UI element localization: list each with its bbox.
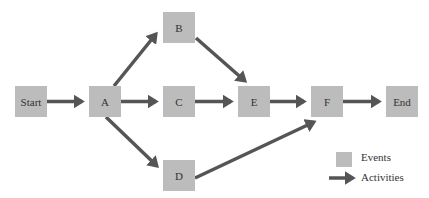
- event-node-d: D: [163, 160, 195, 191]
- node-label: E: [251, 96, 258, 108]
- event-node-e: E: [238, 86, 270, 117]
- arrow-b-to-e: [196, 38, 245, 81]
- node-label: C: [175, 96, 182, 108]
- event-node-c: C: [163, 86, 195, 117]
- arrow-a-to-b: [114, 34, 156, 86]
- legend-activities-label: Activities: [361, 171, 404, 183]
- node-label: F: [324, 96, 330, 108]
- legend-events-label: Events: [361, 151, 391, 163]
- arrow-a-to-d: [106, 117, 157, 166]
- node-label: End: [393, 96, 411, 108]
- node-label: Start: [21, 96, 42, 108]
- event-node-b: B: [163, 12, 195, 43]
- arrow-d-to-f: [195, 122, 314, 178]
- node-label: D: [175, 170, 183, 182]
- node-label: A: [101, 96, 109, 108]
- event-node-start: Start: [15, 86, 47, 117]
- legend-event-swatch-icon: [336, 152, 352, 167]
- event-node-f: F: [311, 86, 343, 117]
- activity-network-arrows: [0, 0, 429, 198]
- event-node-end: End: [386, 86, 418, 117]
- node-label: B: [175, 22, 182, 34]
- event-node-a: A: [89, 86, 121, 117]
